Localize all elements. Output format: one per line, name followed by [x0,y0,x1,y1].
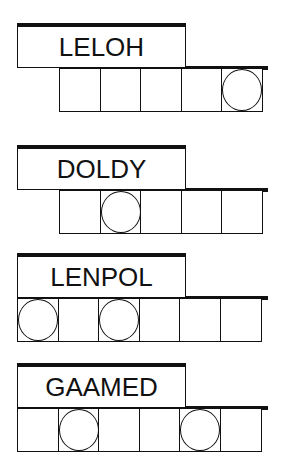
circle-marker-icon [180,409,220,451]
answer-cell-1[interactable] [17,408,59,452]
scrambled-word-box: DOLDY [17,145,186,190]
answer-cells [17,298,260,342]
scrambled-word-box: LENPOL [17,253,186,298]
scrambled-word-box: GAAMED [17,363,186,408]
answer-cell-1[interactable] [59,68,101,112]
circle-marker-icon [101,191,141,233]
answer-cell-1[interactable] [59,190,101,234]
answer-cell-5[interactable] [221,190,263,234]
answer-cell-1-circled[interactable] [17,298,59,342]
answer-cells [59,68,262,112]
answer-cell-6[interactable] [220,298,262,342]
answer-cell-4[interactable] [139,408,181,452]
answer-cell-3[interactable] [140,190,182,234]
answer-cell-4[interactable] [139,298,181,342]
answer-cell-4[interactable] [181,190,223,234]
circle-marker-icon [59,409,99,451]
circle-marker-icon [99,299,139,341]
circle-marker-icon [18,299,58,341]
answer-cell-3[interactable] [140,68,182,112]
circle-marker-icon [222,69,262,111]
answer-cell-2[interactable] [100,68,142,112]
answer-cells [17,408,260,452]
answer-cell-5-circled[interactable] [179,408,221,452]
answer-cell-2-circled[interactable] [100,190,142,234]
scrambled-word: DOLDY [57,154,147,185]
answer-cell-2-circled[interactable] [58,408,100,452]
scrambled-word: LENPOL [50,262,153,293]
answer-cell-6[interactable] [220,408,262,452]
answer-cell-3[interactable] [98,408,140,452]
answer-cells [59,190,262,234]
answer-cell-5-circled[interactable] [221,68,263,112]
answer-cell-4[interactable] [181,68,223,112]
answer-cell-5[interactable] [179,298,221,342]
scrambled-word: GAAMED [45,372,158,403]
answer-cell-3-circled[interactable] [98,298,140,342]
scrambled-word: LELOH [59,32,144,63]
answer-cell-2[interactable] [58,298,100,342]
scrambled-word-box: LELOH [17,23,186,68]
